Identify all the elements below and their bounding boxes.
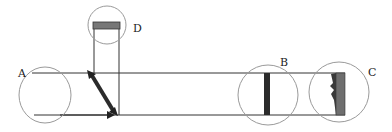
optical-diagram: A D B C (0, 0, 392, 132)
label-c: C (368, 66, 376, 79)
label-b: B (280, 56, 288, 69)
bar-b (264, 73, 270, 115)
label-d: D (133, 22, 142, 35)
bar-c (336, 73, 345, 115)
jagged-edge-c (330, 73, 336, 115)
label-a: A (17, 67, 27, 80)
diagonal-mirror-arrow (91, 74, 114, 112)
bar-d (93, 22, 120, 29)
